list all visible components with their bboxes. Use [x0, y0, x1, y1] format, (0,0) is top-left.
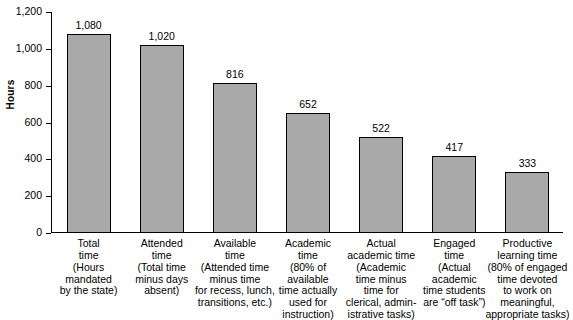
y-tick-label: 600	[24, 116, 42, 128]
y-tick-mark	[46, 159, 51, 160]
bar-slot: 522	[345, 12, 418, 233]
y-tick-mark	[46, 49, 51, 50]
bar[interactable]	[359, 137, 403, 233]
bar[interactable]	[213, 83, 257, 233]
category-note: (80% of engaged time devoted to work on …	[485, 262, 570, 320]
y-tick-label: 200	[24, 189, 42, 201]
bar[interactable]	[140, 45, 184, 233]
y-tick-label: 1,200	[16, 5, 42, 17]
bar-value-label: 1,020	[149, 30, 175, 42]
y-tick-mark	[46, 123, 51, 124]
plot-area: 02004006008001,0001,200 1,0801,020816652…	[51, 12, 563, 233]
bar-value-label: 333	[519, 157, 537, 169]
y-tick-label: 400	[24, 152, 42, 164]
bar[interactable]	[286, 113, 330, 233]
bar-slot: 1,020	[125, 12, 198, 233]
bar-value-label: 1,080	[75, 19, 101, 31]
bar[interactable]	[432, 156, 476, 233]
bar-slot: 652	[271, 12, 344, 233]
bar-value-label: 652	[299, 98, 317, 110]
bar-value-label: 816	[226, 68, 244, 80]
y-tick-mark	[46, 233, 51, 234]
y-tick-mark	[46, 196, 51, 197]
y-tick-label: 0	[36, 226, 42, 238]
bar-slot: 333	[491, 12, 564, 233]
y-tick-mark	[46, 86, 51, 87]
category-label: Productive learning time(80% of engaged …	[485, 238, 570, 320]
bar[interactable]	[505, 172, 549, 233]
bar-value-label: 522	[372, 122, 390, 134]
y-tick-label: 1,000	[16, 42, 42, 54]
y-tick-mark	[46, 12, 51, 13]
y-axis-title: Hours	[5, 94, 16, 110]
bar-value-label: 417	[446, 141, 464, 153]
y-tick-label: 800	[24, 79, 42, 91]
bar-slot: 816	[198, 12, 271, 233]
x-axis-category-labels: Total time(Hours mandated by the state)A…	[52, 238, 563, 308]
category-title: Productive learning time	[485, 238, 570, 261]
bar-slot: 417	[418, 12, 491, 233]
bar-slot: 1,080	[52, 12, 125, 233]
bar[interactable]	[67, 34, 111, 233]
bars-layer: 1,0801,020816652522417333	[52, 12, 563, 233]
